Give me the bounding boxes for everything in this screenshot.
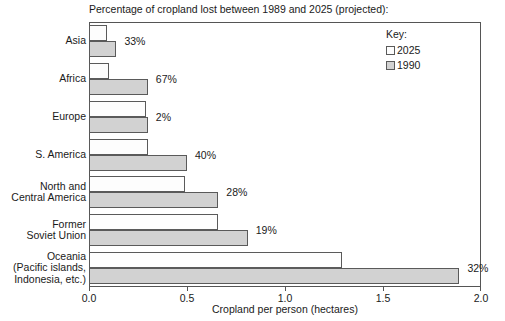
bar-1990 — [89, 41, 116, 57]
bar-2025 — [89, 63, 109, 79]
x-tick-mark — [187, 287, 188, 291]
category-label: North andCentral America — [0, 181, 86, 204]
bar-1990 — [89, 79, 148, 95]
bar-2025 — [89, 101, 146, 117]
x-tick-mark — [383, 287, 384, 291]
x-tick-mark — [285, 287, 286, 291]
legend-title: Key: — [386, 28, 420, 41]
chart-legend: Key: 20251990 — [386, 28, 420, 74]
category-axis-labels: AsiaAfricaEuropeS. AmericaNorth andCentr… — [0, 22, 86, 287]
legend-swatch-icon — [386, 61, 395, 70]
category-label: S. America — [0, 149, 86, 161]
bar-percentage-label: 19% — [256, 224, 277, 236]
bar-percentage-label: 67% — [156, 73, 177, 85]
bar-1990 — [89, 268, 459, 284]
legend-label: 2025 — [397, 44, 420, 57]
bar-chart: Percentage of cropland lost between 1989… — [0, 0, 505, 321]
bar-percentage-label: 40% — [195, 149, 216, 161]
bar-1990 — [89, 192, 218, 208]
category-label: FormerSoviet Union — [0, 219, 86, 242]
bar-percentage-label: 28% — [226, 186, 247, 198]
bar-2025 — [89, 252, 342, 268]
category-label: Asia — [0, 35, 86, 47]
bar-1990 — [89, 117, 148, 133]
bar-2025 — [89, 214, 218, 230]
x-tick-mark — [89, 287, 90, 291]
bar-2025 — [89, 25, 107, 41]
bars-layer: 33%67%2%40%28%19%32% — [89, 22, 481, 287]
legend-item: 1990 — [386, 59, 420, 72]
bar-percentage-label: 33% — [124, 35, 145, 47]
bar-1990 — [89, 230, 248, 246]
category-label: Africa — [0, 73, 86, 85]
bar-percentage-label: 2% — [156, 111, 171, 123]
legend-items: 20251990 — [386, 44, 420, 72]
bar-1990 — [89, 155, 187, 171]
legend-swatch-icon — [386, 46, 395, 55]
category-label: Oceania(Pacific islands,Indonesia, etc.) — [0, 251, 86, 286]
bar-2025 — [89, 139, 148, 155]
bar-2025 — [89, 176, 185, 192]
legend-item: 2025 — [386, 44, 420, 57]
category-label: Europe — [0, 111, 86, 123]
x-axis-title: Cropland per person (hectares) — [89, 303, 481, 316]
bar-percentage-label: 32% — [467, 262, 488, 274]
legend-label: 1990 — [397, 59, 420, 72]
x-tick-mark — [480, 287, 481, 291]
chart-title: Percentage of cropland lost between 1989… — [89, 3, 388, 16]
